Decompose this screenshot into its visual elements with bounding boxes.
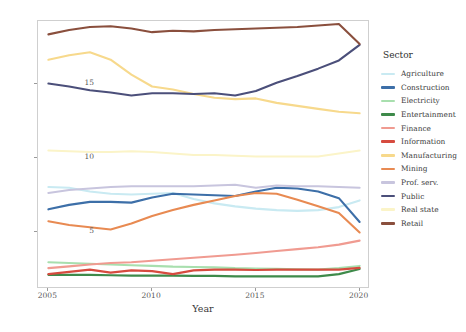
legend-item-information[interactable]: Information bbox=[381, 135, 466, 149]
y-tick-mark bbox=[34, 157, 37, 158]
x-tick-label: 2015 bbox=[245, 291, 264, 300]
y-tick-label: 15 bbox=[84, 78, 94, 87]
y-tick-mark bbox=[34, 83, 37, 84]
legend-item-label: Finance bbox=[401, 124, 431, 133]
line-series-real-state bbox=[48, 151, 359, 157]
y-tick-mark bbox=[34, 231, 37, 232]
x-tick-mark bbox=[151, 288, 152, 291]
legend-item-finance[interactable]: Finance bbox=[381, 121, 466, 135]
legend-item-mining[interactable]: Mining bbox=[381, 162, 466, 176]
legend-item-agriculture[interactable]: Agriculture bbox=[381, 67, 466, 81]
legend-item-label: Construction bbox=[401, 83, 450, 92]
line-series-manufacturing bbox=[48, 52, 359, 113]
legend-item-prof-serv[interactable]: Prof. serv. bbox=[381, 176, 466, 190]
legend-item-label: Public bbox=[401, 192, 424, 201]
legend-item-electricity[interactable]: Electricity bbox=[381, 94, 466, 108]
chart-root: 51015 2005201020152020 Participation Yea… bbox=[0, 0, 466, 332]
legend-swatch-icon bbox=[381, 208, 395, 211]
legend-swatch-icon bbox=[381, 140, 395, 143]
x-tick-mark bbox=[47, 288, 48, 291]
legend-swatch-icon bbox=[381, 100, 395, 103]
line-series-information bbox=[48, 268, 359, 274]
y-tick-label: 10 bbox=[84, 152, 94, 161]
legend-item-label: Entertainment bbox=[401, 110, 456, 119]
y-tick-label: 5 bbox=[89, 226, 94, 235]
legend-item-label: Agriculture bbox=[401, 69, 444, 78]
x-tick-label: 2010 bbox=[142, 291, 161, 300]
legend-swatch-icon bbox=[381, 113, 395, 116]
x-tick-mark bbox=[255, 288, 256, 291]
legend-item-label: Retail bbox=[401, 219, 423, 228]
legend-title: Sector bbox=[383, 50, 466, 60]
legend-item-public[interactable]: Public bbox=[381, 189, 466, 203]
legend-swatch-icon bbox=[381, 73, 395, 76]
legend-swatch-icon bbox=[381, 168, 395, 171]
legend-item-label: Real state bbox=[401, 205, 439, 214]
legend: Sector AgricultureConstructionElectricit… bbox=[381, 50, 466, 230]
x-tick-label: 2005 bbox=[38, 291, 57, 300]
legend-item-construction[interactable]: Construction bbox=[381, 81, 466, 95]
line-series-retail bbox=[48, 24, 359, 44]
x-tick-label: 2020 bbox=[349, 291, 368, 300]
legend-swatch-icon bbox=[381, 195, 395, 198]
legend-swatch-icon bbox=[381, 154, 395, 157]
legend-item-label: Prof. serv. bbox=[401, 178, 438, 187]
line-series-public bbox=[48, 45, 359, 96]
line-series-mining bbox=[48, 193, 359, 232]
legend-item-real-state[interactable]: Real state bbox=[381, 203, 466, 217]
legend-swatch-icon bbox=[381, 181, 395, 184]
legend-item-label: Manufacturing bbox=[401, 151, 457, 160]
legend-item-label: Information bbox=[401, 137, 445, 146]
legend-swatch-icon bbox=[381, 127, 395, 130]
x-tick-mark bbox=[359, 288, 360, 291]
legend-item-retail[interactable]: Retail bbox=[381, 217, 466, 231]
legend-item-manufacturing[interactable]: Manufacturing bbox=[381, 149, 466, 163]
legend-item-label: Electricity bbox=[401, 96, 440, 105]
legend-swatch-icon bbox=[381, 222, 395, 225]
legend-items: AgricultureConstructionElectricityEntert… bbox=[381, 67, 466, 230]
legend-item-entertainment[interactable]: Entertainment bbox=[381, 108, 466, 122]
x-axis-label: Year bbox=[192, 303, 213, 314]
legend-item-label: Mining bbox=[401, 164, 428, 173]
line-series-finance bbox=[48, 241, 359, 269]
legend-swatch-icon bbox=[381, 86, 395, 89]
